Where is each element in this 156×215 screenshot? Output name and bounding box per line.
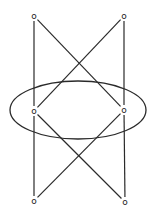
node-bottom-right: o [122, 197, 128, 207]
node-top-right: o [121, 11, 127, 21]
node-mid-right: o [121, 105, 127, 115]
node-mid-left: o [31, 106, 37, 116]
edges-group [34, 20, 125, 199]
edge-mid-left-to-bottom-right [38, 115, 122, 199]
graph-diagram: oooooo [0, 0, 156, 215]
node-bottom-left: o [31, 196, 37, 206]
node-top-left: o [31, 11, 37, 21]
nodes-group: oooooo [31, 11, 128, 207]
edge-mid-right-to-bottom-right [124, 115, 125, 197]
